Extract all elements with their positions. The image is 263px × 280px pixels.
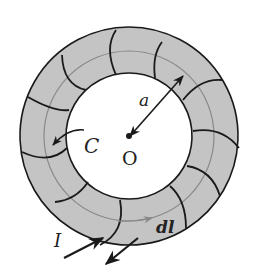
current-label: I	[53, 230, 62, 251]
center-point	[126, 133, 132, 139]
line-element-label: dl	[156, 217, 175, 237]
center-label: O	[122, 147, 138, 169]
radius-label: a	[139, 90, 149, 110]
current-lead-in	[64, 238, 103, 258]
contour-label: C	[84, 134, 99, 158]
radius-arrow	[130, 76, 183, 136]
toroid-diagram: a O C dl I	[0, 0, 263, 280]
